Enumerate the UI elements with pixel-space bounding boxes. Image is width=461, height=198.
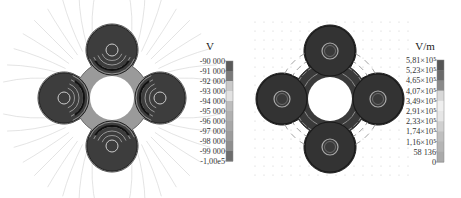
arrow-dot <box>398 165 399 166</box>
arrow-dot <box>254 111 255 112</box>
arrow-dot <box>299 39 300 40</box>
arrow-dot <box>254 30 255 31</box>
colorbar-segment <box>226 131 233 142</box>
arrow-dot <box>290 21 291 22</box>
arrow-dot <box>299 156 300 157</box>
arrow-dot <box>281 138 282 139</box>
arrow-dot <box>290 174 291 175</box>
arrow-dot <box>299 48 300 49</box>
field-line <box>7 65 63 74</box>
colorbar-tick-label: -90 000 <box>200 57 225 66</box>
colorbar-tick-label: 1,16×10⁵ <box>406 138 436 147</box>
arrow-dot <box>299 165 300 166</box>
arrow-dot <box>308 30 309 31</box>
colorbar-segment <box>437 101 444 112</box>
arrow-dot <box>263 165 264 166</box>
arrow-dot <box>398 48 399 49</box>
arrow-dot <box>272 165 273 166</box>
lobe-disk <box>87 121 137 171</box>
arrow-dot <box>371 21 372 22</box>
arrow-dot <box>362 165 363 166</box>
colorbar-segment <box>437 142 444 153</box>
center-hole <box>308 77 352 121</box>
colorbar-tick-label: -93 000 <box>200 87 225 96</box>
arrow-dot <box>308 21 309 22</box>
colorbar-tick-label: -97 000 <box>200 127 225 136</box>
arrow-dot <box>389 165 390 166</box>
arrow-dot <box>254 102 255 103</box>
arrow-dot <box>263 48 264 49</box>
arrow-dot <box>281 174 282 175</box>
field-arrow <box>359 66 363 70</box>
arrow-dot <box>254 147 255 148</box>
colorbar-tick-label: -91 000 <box>200 67 225 76</box>
arrow-dot <box>272 30 273 31</box>
arrow-dot <box>389 57 390 58</box>
arrow-dot <box>353 30 354 31</box>
lobe <box>87 121 137 171</box>
arrow-dot <box>263 174 264 175</box>
colorbar-segment <box>437 80 444 91</box>
arrow-dot <box>263 30 264 31</box>
arrow-dot <box>398 39 399 40</box>
arrow-dot <box>326 174 327 175</box>
arrow-dot <box>362 48 363 49</box>
arrow-dot <box>290 147 291 148</box>
arrow-dot <box>290 66 291 67</box>
colorbar-tick-label: 1,74×10⁵ <box>406 127 436 136</box>
field-line <box>136 147 145 198</box>
arrow-dot <box>299 138 300 139</box>
field-arrow <box>297 66 301 70</box>
arrow-dot <box>407 156 408 157</box>
arrow-dot <box>389 66 390 67</box>
arrow-dot <box>308 165 309 166</box>
arrow-dot <box>272 57 273 58</box>
colorbar-segment <box>226 101 233 112</box>
arrow-dot <box>263 120 264 121</box>
arrow-dot <box>290 48 291 49</box>
arrow-dot <box>263 156 264 157</box>
colorbar-segment <box>226 71 233 82</box>
arrow-dot <box>263 129 264 130</box>
arrow-dot <box>344 174 345 175</box>
lobe <box>305 26 355 76</box>
arrow-dot <box>407 30 408 31</box>
arrow-dot <box>290 57 291 58</box>
colorbar-unit: V/m <box>415 40 435 52</box>
arrow-dot <box>398 129 399 130</box>
arrow-dot <box>380 138 381 139</box>
arrow-dot <box>353 21 354 22</box>
arrow-dot <box>254 48 255 49</box>
arrow-dot <box>254 156 255 157</box>
arrow-dot <box>371 39 372 40</box>
colorbar-tick-label: 4,07×10⁵ <box>406 87 436 96</box>
field-line <box>7 122 63 131</box>
lobe <box>305 122 355 172</box>
colorbar-segment <box>437 131 444 142</box>
arrow-dot <box>254 129 255 130</box>
arrow-dot <box>317 174 318 175</box>
arrow-dot <box>272 39 273 40</box>
arrow-dot <box>254 93 255 94</box>
arrow-dot <box>407 147 408 148</box>
arrow-dot <box>380 147 381 148</box>
colorbar-tick-label: -99 000 <box>200 147 225 156</box>
arrow-dot <box>371 165 372 166</box>
arrow-dot <box>290 156 291 157</box>
arrow-dot <box>371 66 372 67</box>
arrow-dot <box>254 120 255 121</box>
arrow-dot <box>344 21 345 22</box>
arrow-dot <box>380 156 381 157</box>
colorbar-segment <box>226 111 233 122</box>
arrow-dot <box>281 39 282 40</box>
colorbar-tick-label: -96 000 <box>200 117 225 126</box>
arrow-dot <box>263 75 264 76</box>
arrow-dot <box>407 165 408 166</box>
arrow-dot <box>380 66 381 67</box>
arrow-dot <box>362 39 363 40</box>
arrow-dot <box>362 147 363 148</box>
colorbar-tick-label: 5,23×10⁵ <box>406 66 436 75</box>
arrow-dot <box>281 30 282 31</box>
arrow-dot <box>317 21 318 22</box>
colorbar-segment <box>437 121 444 132</box>
